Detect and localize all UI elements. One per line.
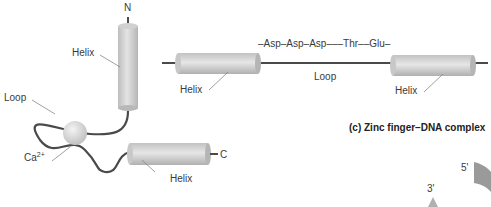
zinc-finger-title: (c) Zinc finger–DNA complex [349, 122, 485, 133]
loop-label: Loop [4, 92, 26, 103]
dna-strand-3prime [428, 197, 438, 207]
calcium-charge: 2+ [37, 151, 45, 158]
helix-top-label: Helix [72, 47, 94, 58]
sequence-helix-left-label: Helix [180, 84, 202, 95]
sequence-helix-left [175, 53, 261, 74]
calcium-label: Ca2+ [24, 151, 45, 163]
dna-strand-5prime [474, 162, 491, 192]
three-prime-label: 3' [427, 183, 434, 194]
sequence-helix-right [390, 55, 476, 76]
n-terminus-label: N [124, 2, 131, 13]
ef-hand-helix-bottom [127, 143, 218, 165]
c-terminus-label: C [220, 149, 227, 160]
sequence-loop-label: Loop [314, 71, 336, 82]
ef-hand-helix-top [118, 17, 138, 111]
calcium-symbol: Ca [24, 152, 37, 163]
calcium-ion [63, 121, 87, 145]
diagram-canvas [0, 0, 491, 207]
helix-bottom-label: Helix [170, 173, 192, 184]
sequence-label: –Asp–Asp–Asp–––Thr––Glu– [258, 38, 390, 49]
sequence-helix-right-label: Helix [395, 85, 417, 96]
five-prime-label: 5' [461, 162, 468, 173]
